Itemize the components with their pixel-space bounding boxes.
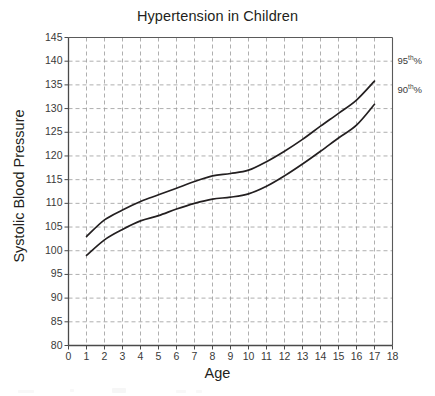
series-label-90th: 90th%: [398, 83, 422, 95]
gridlines: [69, 38, 393, 346]
scan-artifact: [176, 390, 186, 393]
scan-artifact: [196, 390, 202, 393]
scan-artifact: [18, 390, 34, 393]
series-label-95th: 95th%: [398, 54, 422, 66]
plot-canvas: [0, 0, 435, 396]
scan-artifact: [70, 389, 74, 392]
hypertension-chart: Hypertension in Children Systolic Blood …: [0, 0, 435, 396]
scan-artifact: [112, 388, 126, 393]
axis-frame: [65, 38, 393, 350]
